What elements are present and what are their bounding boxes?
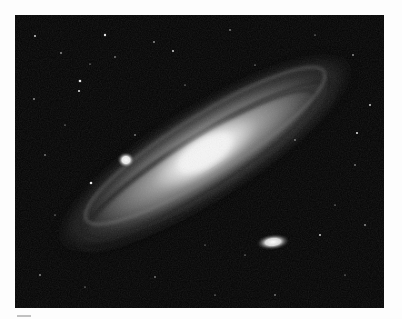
page [0, 0, 402, 319]
caption-fragment [17, 315, 31, 317]
galaxy-image [15, 15, 384, 308]
galaxy-photo [15, 15, 384, 308]
